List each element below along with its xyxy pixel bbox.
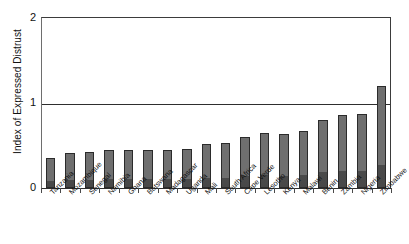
bar	[202, 17, 212, 188]
bar	[318, 17, 328, 188]
bar-rect	[221, 143, 231, 188]
y-tick-label-0: 0	[20, 182, 36, 193]
bar	[357, 17, 367, 188]
bar	[163, 17, 173, 188]
bar	[104, 17, 114, 188]
bar	[65, 17, 75, 188]
bar	[143, 17, 153, 188]
bar	[279, 17, 289, 188]
bar	[221, 17, 231, 188]
y-axis-title: Index of Expressed Distrust	[12, 12, 23, 172]
bar	[299, 17, 309, 188]
bar	[338, 17, 348, 188]
x-labels-container: TanzaniaMozambiqueSenegalNamibiaGhanaBot…	[41, 190, 406, 244]
bar-rect	[377, 86, 387, 188]
bar	[377, 17, 387, 188]
bar	[124, 17, 134, 188]
y-tick-label-1: 1	[20, 97, 36, 108]
bar-rect	[338, 115, 348, 188]
y-tick-label-2: 2	[20, 12, 36, 23]
bar	[46, 17, 56, 188]
bar	[240, 17, 250, 188]
